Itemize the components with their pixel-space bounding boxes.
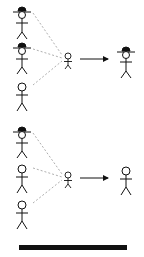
person-with-hat-icon — [13, 43, 31, 74]
child-icon — [64, 172, 72, 188]
person-with-hat-icon — [13, 127, 31, 158]
separator-bar — [19, 245, 127, 250]
person-icon — [16, 165, 28, 193]
panel-bottom — [13, 127, 132, 229]
child-icon — [64, 53, 72, 69]
panel-top — [13, 7, 135, 111]
dashed-connectors — [33, 13, 62, 85]
person-icon — [16, 201, 28, 229]
person-icon — [16, 83, 28, 111]
person-icon — [120, 167, 132, 195]
person-with-hat-icon — [117, 47, 135, 78]
person-with-hat-icon — [13, 7, 31, 39]
dashed-connectors — [33, 133, 62, 203]
diagram-canvas — [0, 0, 144, 257]
